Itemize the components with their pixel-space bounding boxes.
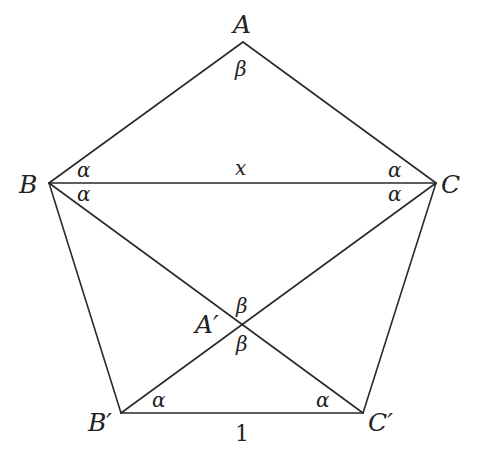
diagonal-BC2 bbox=[49, 183, 363, 413]
vertex-label-A: A bbox=[231, 10, 251, 39]
angle-label-B-prime: α bbox=[152, 388, 166, 412]
angle-label-C-upper: α bbox=[388, 158, 402, 182]
angle-label-C-lower: α bbox=[388, 182, 402, 206]
segment-label-BC: x bbox=[235, 156, 246, 180]
vertex-label-C-prime: C′ bbox=[368, 408, 393, 437]
pentagon-diagram: A B C B′ C′ A′ x 1 β α α α α β β α α bbox=[0, 0, 479, 459]
vertex-label-A-prime: A′ bbox=[193, 310, 219, 339]
edge-AC bbox=[243, 42, 436, 183]
angle-label-A-prime-lower: β bbox=[235, 332, 248, 356]
vertex-label-C: C bbox=[441, 170, 460, 199]
angle-label-B-lower: α bbox=[77, 182, 91, 206]
segment-label-B2C2: 1 bbox=[235, 421, 249, 446]
vertex-label-B-prime: B′ bbox=[87, 408, 112, 437]
diagonal-CB2 bbox=[121, 183, 436, 413]
vertex-label-B: B bbox=[18, 170, 37, 199]
angle-label-C-prime: α bbox=[316, 388, 330, 412]
angle-label-A: β bbox=[234, 57, 247, 81]
angle-label-A-prime-upper: β bbox=[235, 294, 248, 318]
edge-BB2 bbox=[49, 183, 121, 413]
angle-label-B-upper: α bbox=[77, 158, 91, 182]
edge-CC2 bbox=[363, 183, 436, 413]
